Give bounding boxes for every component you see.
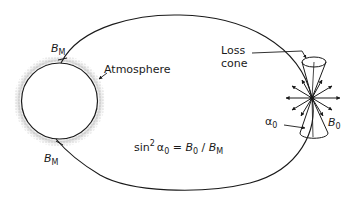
loss-cone-label-line1: Loss [221, 44, 245, 57]
bm-top-label: BM [51, 42, 66, 57]
planet-circle [22, 63, 98, 139]
pitch-angle-equation: sin2α0 = B0 / BM [134, 139, 223, 156]
bm-bottom-label: BM [44, 152, 59, 167]
alpha0-label: α0 [265, 115, 277, 130]
loss-cone-diagram: BM BM Atmosphere Loss cone α0 B0 sin2α0 … [0, 0, 357, 203]
loss-cone-leader [252, 51, 306, 58]
loss-cone-label-line2: cone [221, 57, 248, 70]
b0-label: B0 [328, 116, 341, 131]
atmosphere-label: Atmosphere [104, 63, 171, 76]
